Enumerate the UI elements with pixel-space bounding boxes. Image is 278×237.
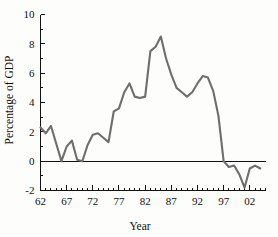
x-tick-label: 62: [35, 195, 46, 207]
data-series-group: [41, 37, 261, 188]
y-tick-label: 4: [29, 96, 35, 108]
x-tick-label: 02: [244, 195, 255, 207]
y-tick-marks-group: [41, 15, 46, 191]
y-tick-label: -2: [25, 184, 34, 196]
y-tick-label: 2: [29, 126, 35, 138]
x-tick-marks-group: [41, 185, 266, 191]
x-tick-label: 97: [218, 195, 230, 207]
y-axis-title: Percentage of GDP: [3, 56, 16, 145]
x-tick-label: 77: [113, 195, 125, 207]
data-series-line: [41, 37, 261, 188]
y-tick-label: 0: [29, 155, 35, 167]
x-tick-label: 72: [87, 195, 98, 207]
x-tick-labels-group: 626772778287929702: [35, 195, 255, 207]
x-tick-label: 92: [192, 195, 203, 207]
y-tick-label: 10: [24, 8, 36, 20]
x-tick-label: 67: [61, 195, 73, 207]
axes-group: [41, 15, 266, 191]
gdp-percentage-line-chart: 1086420-2 626772778287929702 Year Percen…: [0, 0, 278, 237]
x-axis-title: Year: [129, 220, 150, 232]
x-tick-label: 87: [166, 195, 178, 207]
chart-container: 1086420-2 626772778287929702 Year Percen…: [0, 0, 278, 237]
y-tick-labels-group: 1086420-2: [24, 8, 36, 196]
x-tick-label: 82: [140, 195, 151, 207]
axis-spine: [41, 15, 266, 191]
y-tick-label: 8: [29, 38, 35, 50]
y-tick-label: 6: [29, 67, 35, 79]
